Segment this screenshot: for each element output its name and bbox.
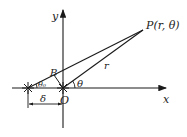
polar-coordinate-diagram: y x P(r, θ) r θ θ₀ B O δ — [0, 0, 187, 137]
point-p-label: P(r, θ) — [145, 19, 180, 32]
theta0-label: θ₀ — [38, 80, 47, 89]
origin-star-icon — [57, 82, 69, 94]
x-axis-label: x — [163, 93, 170, 106]
radius-line-r — [63, 30, 143, 88]
radius-label: r — [104, 60, 110, 71]
angle-arc-theta — [73, 81, 75, 88]
origin-label: O — [60, 94, 69, 107]
source-star-icon — [22, 82, 34, 94]
point-b-label: B — [49, 67, 57, 78]
theta-label: θ — [77, 78, 83, 89]
delta-label: δ — [40, 93, 46, 104]
angle-arc-theta0 — [36, 84, 37, 88]
y-axis-label: y — [51, 10, 59, 23]
